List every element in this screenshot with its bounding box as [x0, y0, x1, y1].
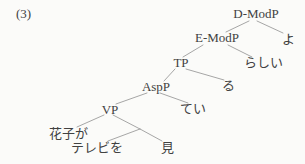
tree-node-dmodp: D-ModP: [233, 7, 279, 20]
tree-node-ru: る: [222, 79, 235, 92]
tree-node-terebio: テレビを: [71, 141, 123, 154]
tree-node-tei: てい: [180, 102, 206, 115]
tree-node-emodp: E-ModP: [195, 31, 239, 44]
edge-tp-ru: [186, 69, 224, 80]
tree-node-rashii: らしい: [244, 56, 283, 69]
edge-dmodp-yo: [257, 21, 283, 33]
edge-vbar-mi: [140, 129, 162, 141]
tree-node-yo: よ: [282, 33, 295, 46]
tree-node-tp: TP: [173, 56, 188, 69]
tree-node-hanakoga: 花子が: [49, 127, 88, 140]
tree-node-aspp: AspP: [142, 80, 170, 93]
edge-vp-vbar: [113, 115, 140, 129]
edge-aspp-vp: [116, 93, 147, 104]
tree-node-mi: 見: [161, 141, 174, 154]
tree-node-vp: VP: [102, 103, 119, 116]
syntax-tree-figure: (3) D-ModP E-ModP よ TP らしい AspP る VP てい …: [0, 0, 305, 164]
